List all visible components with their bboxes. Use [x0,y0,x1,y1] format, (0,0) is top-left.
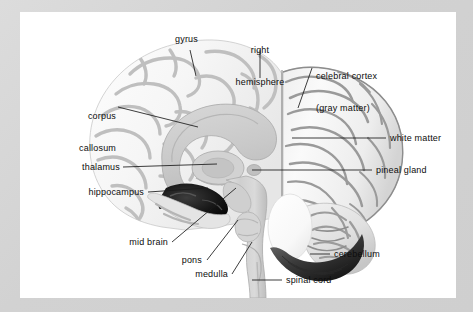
diagram-page: gyrus right hemisphere celebral cortex (… [0,0,473,312]
label-right-hemisphere: right hemisphere [220,24,300,108]
label-white-matter: white matter [390,133,441,144]
label-right-hemisphere-line1: right [220,45,300,56]
label-corpus-callosum-line1: corpus [50,111,116,122]
label-cerebellum: cerebellum [334,249,380,260]
label-cerebral-cortex: celebral cortex (gray matter) [316,50,377,134]
label-medulla: medulla [178,269,228,280]
label-mid-brain: mid brain [106,237,168,248]
label-thalamus: thalamus [56,162,120,173]
diagram-canvas: gyrus right hemisphere celebral cortex (… [20,12,456,298]
label-gyrus: gyrus [142,34,198,45]
label-cerebral-cortex-line1: celebral cortex [316,71,377,82]
label-pineal-gland: pineal gland [376,165,427,176]
label-right-hemisphere-line2: hemisphere [220,77,300,88]
label-hippocampus: hippocampus [64,187,144,198]
label-corpus-callosum-line2: callosum [50,143,116,154]
label-cerebral-cortex-line2: (gray matter) [316,103,377,114]
label-pons: pons [168,255,202,266]
label-spinal-cord: spinal cord [286,275,332,286]
